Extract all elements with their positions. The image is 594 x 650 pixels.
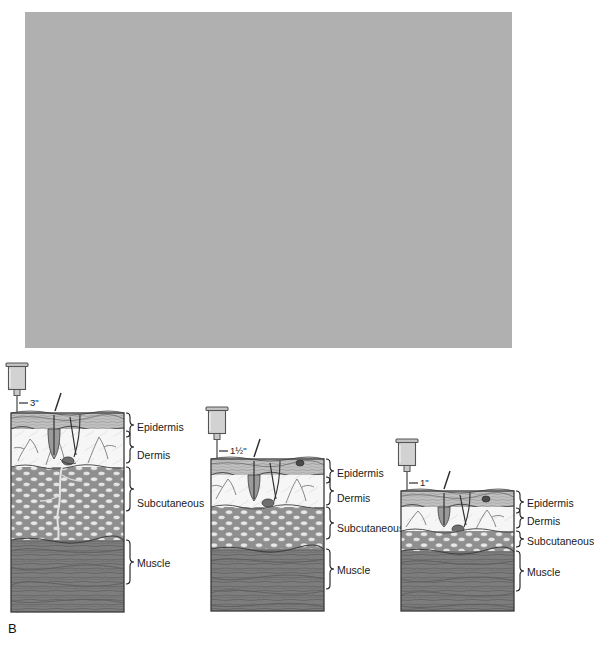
label-subcutaneous-2: Subcutaneous xyxy=(337,522,404,534)
panel-a-background xyxy=(25,12,512,348)
panel-b-letter: B xyxy=(8,621,17,636)
muscle-layer xyxy=(11,540,124,612)
needle-length-label-1p5in: 1½" xyxy=(230,445,247,456)
label-subcutaneous-3: Subcutaneous xyxy=(527,535,594,547)
label-muscle-1: Muscle xyxy=(137,557,170,569)
layer-brackets-2: Epidermis Dermis Subcutaneous Muscle xyxy=(326,459,404,589)
label-subcutaneous-1: Subcutaneous xyxy=(137,497,204,509)
panel-a: A Overweight adult Ideal weight adult Ch… xyxy=(25,12,512,348)
label-dermis-2: Dermis xyxy=(337,492,370,504)
figure-root: A Overweight adult Ideal weight adult Ch… xyxy=(0,0,594,650)
label-muscle-2: Muscle xyxy=(337,564,370,576)
label-dermis-3: Dermis xyxy=(527,515,560,527)
label-epidermis-1: Epidermis xyxy=(137,421,184,433)
label-epidermis-2: Epidermis xyxy=(337,467,384,479)
tissue-block-2 xyxy=(211,439,324,611)
panel-b: 3" xyxy=(0,355,594,650)
label-epidermis-3: Epidermis xyxy=(527,497,574,509)
layer-brackets-1: Epidermis Dermis Subcutaneous Muscle xyxy=(126,413,204,584)
needle-length-label-3in: 3" xyxy=(30,397,39,408)
subcutaneous-layer xyxy=(401,531,514,551)
label-muscle-3: Muscle xyxy=(527,566,560,578)
panel-b-illustration: 3" xyxy=(0,355,594,650)
tissue-block-3 xyxy=(401,471,514,611)
layer-brackets-3: Epidermis Dermis Subcutaneous Muscle xyxy=(516,491,594,591)
muscle-layer xyxy=(401,551,514,611)
overweight-adult-cross-section: 3" xyxy=(6,363,204,612)
label-dermis-1: Dermis xyxy=(137,449,170,461)
needle-length-label-1in: 1" xyxy=(420,477,429,488)
ideal-weight-adult-cross-section: 1½" xyxy=(206,407,404,611)
subcutaneous-layer xyxy=(211,507,324,549)
tissue-block-1 xyxy=(11,393,124,612)
child-cross-section: 1" xyxy=(396,439,594,611)
